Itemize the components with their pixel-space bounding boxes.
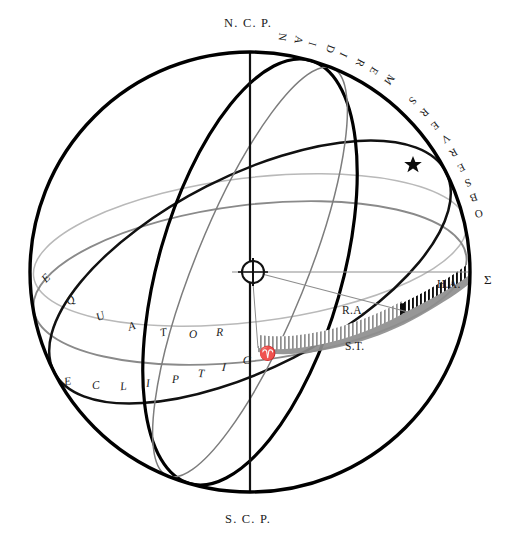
celestial-sphere-svg	[0, 0, 520, 547]
equator-letter: O	[188, 328, 197, 341]
right-ascension-label: R.A.	[342, 304, 365, 316]
hour-angle-label: H.A.	[437, 278, 461, 290]
celestial-sphere-figure: N. C. P. S. C. P. R.A. H.A. S.T. Σ ♈ OBS…	[0, 0, 520, 547]
ecliptic-letter: I	[222, 361, 227, 373]
north-celestial-pole-label: N. C. P.	[224, 16, 272, 31]
south-celestial-pole-label: S. C. P.	[225, 512, 271, 527]
sidereal-time-label: S.T.	[345, 340, 365, 352]
ecliptic-letter: P	[172, 373, 179, 385]
ecliptic-letter: L	[119, 380, 127, 393]
sight-line-to-equinox	[253, 283, 258, 348]
sigma-label: Σ	[484, 272, 492, 288]
ecliptic-letter: C	[242, 354, 251, 367]
star-icon	[404, 156, 422, 172]
earth-symbol-icon	[238, 258, 268, 286]
ecliptic-letter: T	[198, 367, 205, 379]
aries-symbol-icon: ♈	[259, 345, 276, 362]
equator-letter: R	[216, 326, 223, 338]
ecliptic-letter: I	[146, 377, 151, 389]
ecliptic-letter: C	[91, 379, 100, 392]
